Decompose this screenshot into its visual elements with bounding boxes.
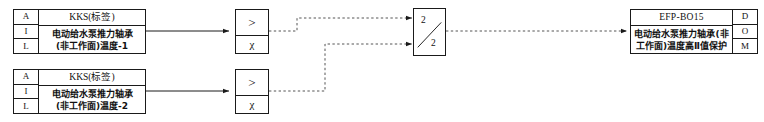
logic-diagram-canvas: A I L KKS(标签) 电动给水泵推力轴承 (非工作面)温度-1 A I L…	[0, 0, 764, 122]
output-description: 电动给水泵推力轴承(非 工作面)温度高Ⅱ值保护	[631, 26, 732, 53]
output-description-line1: 电动给水泵推力轴承(非	[634, 28, 728, 40]
output-row-label-column: D O M	[733, 10, 757, 53]
output-content-column: EFP-BO15 电动给水泵推力轴承(非 工作面)温度高Ⅱ值保护	[631, 10, 733, 53]
input1-row-label-l: L	[14, 39, 38, 53]
comparator-block-2[interactable]: > χ	[235, 69, 269, 114]
comparator1-operator: >	[236, 10, 268, 36]
input2-row-label-column: A I L	[14, 70, 39, 113]
input2-kks-header: KKS(标签)	[39, 70, 145, 86]
input1-description: 电动给水泵推力轴承 (非工作面)温度-1	[39, 26, 145, 53]
input1-description-line1: 电动给水泵推力轴承	[52, 28, 133, 40]
input1-row-label-a: A	[14, 10, 38, 25]
input-signal-table-1[interactable]: A I L KKS(标签) 电动给水泵推力轴承 (非工作面)温度-1	[13, 9, 146, 54]
input1-content-column: KKS(标签) 电动给水泵推力轴承 (非工作面)温度-1	[39, 10, 145, 53]
output-row-label-m: M	[733, 39, 757, 53]
output-row-label-d: D	[733, 10, 757, 25]
input2-row-label-a: A	[14, 70, 38, 85]
voting-block-2oo2[interactable]: 2 2	[413, 8, 446, 56]
input2-content-column: KKS(标签) 电动给水泵推力轴承 (非工作面)温度-2	[39, 70, 145, 113]
input1-kks-header: KKS(标签)	[39, 10, 145, 26]
wire-comparator2-to-voter	[269, 44, 412, 91]
input2-description: 电动给水泵推力轴承 (非工作面)温度-2	[39, 86, 145, 113]
comparator2-operator: >	[236, 70, 268, 96]
wire-comparator1-to-voter	[269, 18, 412, 31]
input2-row-label-i: I	[14, 85, 38, 100]
input1-row-label-i: I	[14, 25, 38, 40]
comparator2-variable: χ	[236, 96, 268, 113]
comparator1-variable: χ	[236, 36, 268, 53]
input2-description-line1: 电动给水泵推力轴承	[52, 88, 133, 100]
comparator-block-1[interactable]: > χ	[235, 9, 269, 54]
output-row-label-o: O	[733, 25, 757, 40]
output-description-line2: 工作面)温度高Ⅱ值保护	[636, 40, 727, 52]
input1-description-line2: (非工作面)温度-1	[56, 40, 128, 52]
input1-row-label-column: A I L	[14, 10, 39, 53]
output-signal-table[interactable]: EFP-BO15 电动给水泵推力轴承(非 工作面)温度高Ⅱ值保护 D O M	[630, 9, 758, 54]
input-signal-table-2[interactable]: A I L KKS(标签) 电动给水泵推力轴承 (非工作面)温度-2	[13, 69, 146, 114]
input2-description-line2: (非工作面)温度-2	[56, 100, 128, 112]
voter-bottom-label: 2	[431, 39, 436, 49]
voter-top-label: 2	[421, 16, 426, 26]
output-tag-header: EFP-BO15	[631, 10, 732, 26]
voter-diagonal-line	[414, 9, 445, 55]
input2-row-label-l: L	[14, 99, 38, 113]
